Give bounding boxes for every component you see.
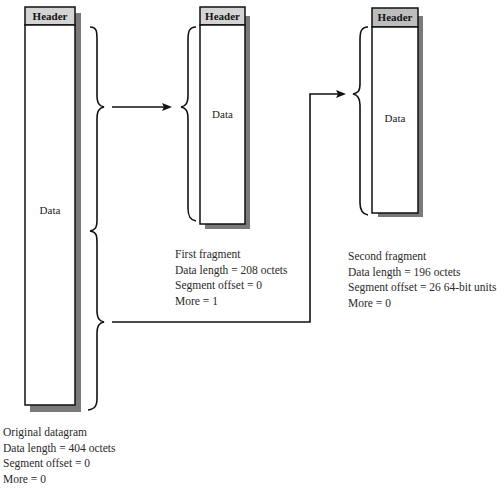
second-caption-more: More = 0 bbox=[348, 296, 496, 312]
first-caption-length: Data length = 208 octets bbox=[175, 263, 288, 279]
original-caption: Original datagram Data length = 404 octe… bbox=[3, 425, 116, 487]
first-data-cell bbox=[200, 25, 245, 224]
original-header-label: Header bbox=[33, 10, 68, 22]
second-fragment-box: Header Data bbox=[372, 8, 423, 217]
first-caption-title: First fragment bbox=[175, 247, 288, 263]
brace-second-fragment-icon bbox=[353, 27, 368, 215]
brace-first-fragment-icon bbox=[181, 27, 196, 221]
second-fragment-caption: Second fragment Data length = 196 octets… bbox=[348, 249, 496, 311]
original-caption-more: More = 0 bbox=[3, 472, 116, 488]
first-fragment-caption: First fragment Data length = 208 octets … bbox=[175, 247, 288, 309]
first-fragment-box: Header Data bbox=[200, 7, 250, 229]
second-caption-title: Second fragment bbox=[348, 249, 496, 265]
first-data-label: Data bbox=[212, 108, 233, 120]
first-header-label: Header bbox=[205, 10, 240, 22]
brace-upper-icon bbox=[90, 27, 104, 231]
original-caption-title: Original datagram bbox=[3, 425, 116, 441]
original-datagram-box: Header Data bbox=[25, 7, 81, 412]
first-caption-more: More = 1 bbox=[175, 294, 288, 310]
original-caption-offset: Segment offset = 0 bbox=[3, 456, 116, 472]
first-caption-offset: Segment offset = 0 bbox=[175, 278, 288, 294]
second-caption-length: Data length = 196 octets bbox=[348, 265, 496, 281]
original-data-label: Data bbox=[40, 204, 61, 216]
second-caption-offset: Segment offset = 26 64-bit units bbox=[348, 280, 496, 296]
brace-lower-icon bbox=[88, 231, 104, 410]
second-data-label: Data bbox=[385, 112, 406, 124]
second-header-label: Header bbox=[378, 11, 413, 23]
original-caption-length: Data length = 404 octets bbox=[3, 441, 116, 457]
